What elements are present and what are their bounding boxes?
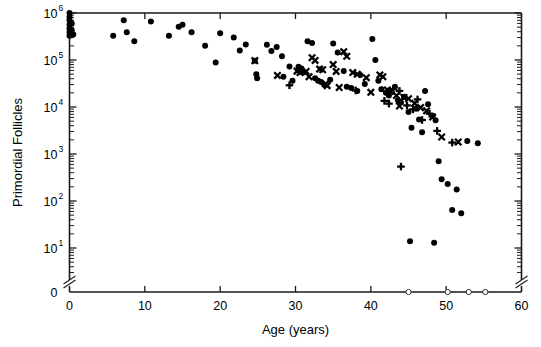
data-point-circle: [180, 22, 186, 28]
data-point-open-circle: [445, 289, 450, 294]
x-tick-label: 20: [213, 299, 227, 313]
y-tick-label-zero: 0: [51, 286, 58, 300]
x-tick-label: 30: [289, 299, 303, 313]
data-points-group: [67, 10, 488, 295]
data-point-x: [368, 89, 374, 95]
data-point-circle: [279, 53, 285, 59]
y-tick-label: 10: [44, 195, 58, 209]
data-point-x: [438, 134, 444, 140]
data-point-circle: [372, 57, 378, 63]
data-point-circle: [422, 88, 428, 94]
data-point-circle: [309, 40, 315, 46]
y-axis-title: Primordial Follicles: [10, 97, 25, 207]
data-point-circle: [286, 63, 292, 69]
y-tick-exponent: 5: [59, 50, 64, 60]
data-point-circle: [464, 138, 470, 144]
data-point-circle: [439, 176, 445, 182]
x-axis-title: Age (years): [262, 322, 329, 337]
x-tick-label: 50: [439, 299, 453, 313]
data-point-circle: [110, 33, 116, 39]
x-tick-label: 10: [138, 299, 152, 313]
data-point-x: [312, 57, 318, 63]
data-point-circle: [445, 181, 451, 187]
data-point-circle: [449, 207, 455, 213]
data-point-open-circle: [483, 289, 488, 294]
data-point-circle: [268, 48, 274, 54]
data-point-circle: [69, 20, 75, 26]
data-point-x: [363, 75, 369, 81]
axes-group: [64, 13, 528, 292]
data-point-x: [336, 84, 342, 90]
ticks-group: [70, 13, 522, 292]
data-point-circle: [213, 60, 219, 66]
data-point-circle: [475, 140, 481, 146]
chart-figure: 10610510410310210100102030405060Age (yea…: [0, 0, 541, 347]
y-tick-label: 10: [44, 101, 58, 115]
data-point-circle: [70, 31, 76, 37]
data-point-x: [274, 72, 280, 78]
data-point-circle: [425, 101, 431, 107]
data-point-circle: [237, 47, 243, 53]
data-point-x: [330, 61, 336, 67]
data-point-open-circle: [406, 289, 411, 294]
data-point-open-circle: [466, 289, 471, 294]
data-point-circle: [121, 17, 127, 23]
x-tick-label: 60: [515, 299, 529, 313]
y-tick-label: 10: [44, 242, 58, 256]
data-point-circle: [362, 81, 368, 87]
data-point-circle: [148, 18, 154, 24]
data-point-circle: [330, 40, 336, 46]
y-tick-exponent: 6: [59, 3, 64, 13]
y-tick-exponent: 4: [59, 97, 64, 107]
data-point-circle: [243, 41, 249, 47]
data-point-circle: [341, 68, 347, 74]
data-point-circle: [407, 238, 413, 244]
x-tick-label: 40: [364, 299, 378, 313]
data-point-circle: [436, 158, 442, 164]
data-point-circle: [369, 36, 375, 42]
data-point-circle: [124, 29, 130, 35]
x-tick-label: 0: [66, 299, 73, 313]
data-point-circle: [217, 30, 223, 36]
data-point-circle: [274, 44, 280, 50]
data-point-circle: [431, 240, 437, 246]
data-point-circle: [458, 210, 464, 216]
data-point-circle: [202, 43, 208, 49]
y-tick-exponent: 3: [59, 144, 64, 154]
data-point-plus: [403, 102, 411, 110]
data-point-circle: [254, 75, 260, 81]
data-point-x: [333, 68, 339, 74]
data-point-circle: [419, 129, 425, 135]
data-point-circle: [264, 42, 270, 48]
y-tick-exponent: 2: [59, 191, 64, 201]
data-point-circle: [231, 35, 237, 41]
data-point-plus: [397, 163, 405, 171]
y-tick-label: 10: [44, 7, 58, 21]
y-tick-exponent: 1: [59, 238, 64, 248]
data-point-circle: [131, 38, 137, 44]
data-point-circle: [189, 29, 195, 35]
data-point-circle: [166, 33, 172, 39]
data-point-circle: [454, 187, 460, 193]
data-point-circle: [409, 125, 415, 131]
data-point-circle: [280, 74, 286, 80]
data-point-circle: [335, 49, 341, 55]
y-tick-label: 10: [44, 54, 58, 68]
y-tick-label: 10: [44, 148, 58, 162]
scatter-plot-svg: 10610510410310210100102030405060Age (yea…: [0, 0, 541, 347]
